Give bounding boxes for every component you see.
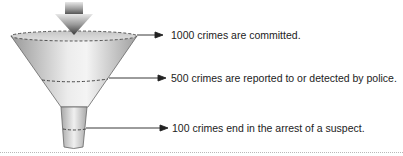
callout-arrow-2 [109,75,166,81]
input-arrow-icon [55,2,93,35]
funnel-spout [61,107,87,149]
callout-arrow-1 [137,32,163,38]
callout-arrow-3 [86,125,168,131]
funnel-cone [11,36,137,107]
stage-label-arrested: 100 crimes end in the arrest of a suspec… [172,122,365,134]
dotted-divider [0,152,403,153]
crime-funnel-diagram: 1000 crimes are committed. 500 crimes ar… [0,0,403,156]
stage-label-reported: 500 crimes are reported to or detected b… [171,72,397,84]
stage-label-committed: 1000 crimes are committed. [171,29,301,41]
